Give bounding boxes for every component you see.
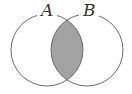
venn-diagram: A B (0, 0, 132, 94)
set-b-label: B (82, 0, 96, 20)
venn-diagram-svg: A B (0, 0, 132, 94)
set-a-label: A (39, 0, 53, 20)
